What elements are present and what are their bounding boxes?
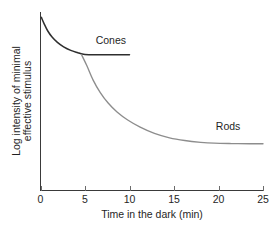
x-tick-labels: 0510152025 xyxy=(38,193,269,205)
y-axis-title-line2: effective stimulus xyxy=(21,61,33,141)
cones-series-label: Cones xyxy=(96,34,126,46)
x-axis-title: Time in the dark (min) xyxy=(101,208,203,220)
x-tick-label: 0 xyxy=(38,193,44,205)
x-tick-label: 25 xyxy=(257,193,269,205)
x-tick-marks xyxy=(42,186,264,191)
rods-series-label: Rods xyxy=(216,120,241,132)
y-axis-title: Log intensity of minimal effective stimu… xyxy=(10,46,33,156)
chart-canvas: 0510152025 Cones Rods Time in the dark (… xyxy=(0,0,276,235)
dark-adaptation-chart: 0510152025 Cones Rods Time in the dark (… xyxy=(0,0,276,235)
x-tick-label: 15 xyxy=(168,193,180,205)
x-tick-label: 5 xyxy=(82,193,88,205)
axis-group xyxy=(41,12,264,191)
x-tick-label: 20 xyxy=(213,193,225,205)
x-tick-label: 10 xyxy=(124,193,136,205)
